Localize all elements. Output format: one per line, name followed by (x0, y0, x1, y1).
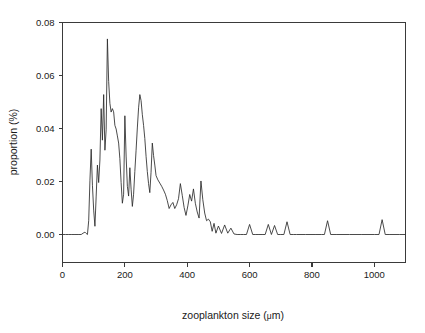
x-tick-label: 800 (304, 269, 320, 280)
x-tick-label: 600 (242, 269, 258, 280)
y-tick-label: 0.02 (36, 176, 55, 187)
x-axis-title: zooplankton size (μm) (182, 309, 284, 321)
y-tick-label: 0.00 (36, 229, 55, 240)
x-tick-label: 200 (117, 269, 133, 280)
x-axis-ticks: 02004006008001000 (60, 263, 385, 280)
chart-figure: 0.000.020.040.060.08 02004006008001000 z… (0, 0, 425, 333)
x-tick-label: 400 (179, 269, 195, 280)
y-axis-ticks: 0.000.020.040.060.08 (36, 17, 63, 240)
y-axis-title: proportion (%) (7, 109, 19, 176)
plot-area: 0.000.020.040.060.08 02004006008001000 z… (0, 0, 425, 333)
y-tick-label: 0.04 (36, 123, 55, 134)
x-tick-label: 1000 (364, 269, 385, 280)
y-tick-label: 0.08 (36, 17, 55, 28)
data-series-line (63, 39, 406, 235)
y-tick-label: 0.06 (36, 70, 55, 81)
x-tick-label: 0 (60, 269, 65, 280)
